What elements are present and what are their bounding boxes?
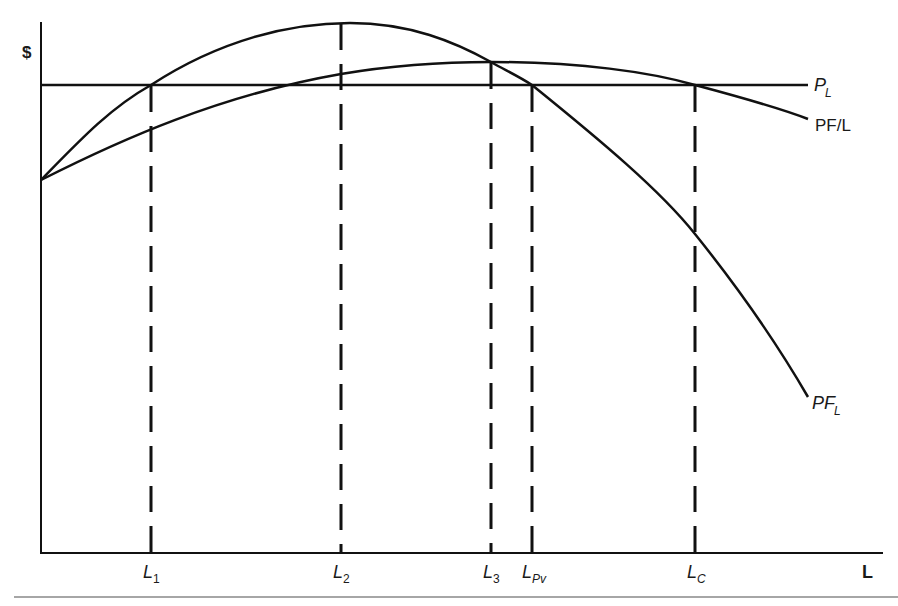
pf-sub-l-label: PFL (812, 393, 841, 418)
tick-lpv: LPv (522, 562, 547, 586)
tick-main: L (143, 562, 153, 582)
tick-l1: L1 (143, 562, 160, 586)
tick-main: L (687, 562, 697, 582)
economics-chart: $ L PL PF/L PFL L1 L2 L3 LPv LC (0, 0, 898, 606)
pl-label: PL (814, 75, 832, 100)
pl-label-sub: L (825, 86, 832, 100)
pf-over-l-label: PF/L (815, 116, 851, 135)
tick-sub: 2 (343, 572, 350, 586)
y-axis-label: $ (22, 43, 32, 62)
tick-main: L (522, 562, 532, 582)
tick-main: L (483, 562, 493, 582)
tick-sub: 1 (153, 572, 160, 586)
tick-lc: LC (687, 562, 706, 586)
x-axis-label: L (862, 562, 873, 582)
pf-sub-l-label-main: PF (812, 393, 836, 413)
tick-l2: L2 (333, 562, 350, 586)
tick-l3: L3 (483, 562, 500, 586)
pf-sub-l-label-sub: L (834, 404, 841, 418)
pf-sub-l-curve (41, 23, 808, 397)
tick-sub: Pv (532, 572, 547, 586)
tick-sub: 3 (493, 572, 500, 586)
pf-over-l-curve (41, 62, 808, 180)
tick-sub: C (697, 572, 706, 586)
dashed-guides (151, 24, 695, 553)
tick-main: L (333, 562, 343, 582)
